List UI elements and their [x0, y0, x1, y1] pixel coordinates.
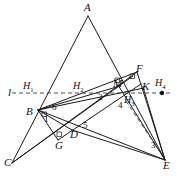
- angle-number-n1: 1: [44, 115, 49, 124]
- vertex-label-C: C: [4, 157, 11, 168]
- point-label-H1: H1: [23, 81, 33, 94]
- point-label-H3: H3: [124, 95, 134, 108]
- point-label-H4-subscript: 4: [162, 83, 165, 90]
- point-label-H1-subscript: 1: [30, 86, 33, 93]
- angle-number-n5: 5: [83, 121, 88, 130]
- vertex-label-G: G: [55, 140, 63, 151]
- vertex-label-B: B: [26, 106, 33, 117]
- line-label-l: l: [8, 87, 11, 98]
- angle-number-n4: 4: [118, 101, 123, 110]
- vertex-label-A: A: [84, 2, 91, 13]
- dashed-segments-group: [12, 93, 172, 152]
- marked-point-dots-group: [160, 91, 164, 95]
- geometry-figure: ABCDEFGKMH1H2H3H4l123456: [0, 0, 177, 176]
- point-label-H2: H2: [73, 81, 83, 94]
- vertex-label-K: K: [142, 81, 149, 92]
- vertex-label-E: E: [163, 160, 170, 171]
- vertex-label-M: M: [113, 78, 122, 89]
- point-dot-H4: [160, 91, 164, 95]
- point-label-H2-subscript: 2: [80, 86, 83, 93]
- angle-number-n3: 3: [151, 141, 156, 150]
- vertex-label-F: F: [136, 63, 143, 74]
- vertex-label-D: D: [70, 129, 78, 140]
- point-label-H4: H4: [155, 78, 165, 91]
- angle-number-n2: 2: [98, 93, 103, 102]
- angle-number-n6: 6: [52, 103, 57, 112]
- point-label-H3-subscript: 3: [131, 100, 134, 107]
- right-angle-at-G-icon: [57, 132, 62, 137]
